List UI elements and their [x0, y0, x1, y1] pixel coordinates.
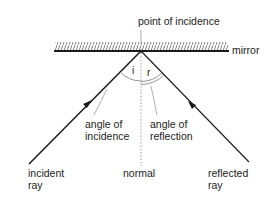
- angle-of-reflection-label: angle of reflection: [150, 118, 193, 142]
- point-of-incidence-dot: [139, 49, 142, 52]
- angle-r-label: r: [147, 67, 150, 79]
- point-of-incidence-label: point of incidence: [138, 15, 220, 27]
- angle-of-reflection-leader: [151, 86, 157, 115]
- angle-i-label: i: [132, 65, 134, 77]
- incident-ray: [29, 51, 141, 164]
- mirror-label: mirror: [232, 44, 259, 56]
- incident-ray-arrow-icon: [83, 100, 92, 108]
- normal-label: normal: [123, 167, 155, 179]
- reflected-ray: [141, 51, 249, 162]
- mirror-hatching: [55, 42, 228, 51]
- angle-i-arc: [120, 72, 141, 81]
- incident-ray-label: incident ray: [28, 167, 64, 191]
- reflected-ray-arrow-icon: [188, 101, 196, 109]
- angle-r-arc-inner: [141, 73, 162, 82]
- angle-of-incidence-label: angle of incidence: [85, 118, 129, 142]
- reflected-ray-label: reflected ray: [208, 167, 248, 191]
